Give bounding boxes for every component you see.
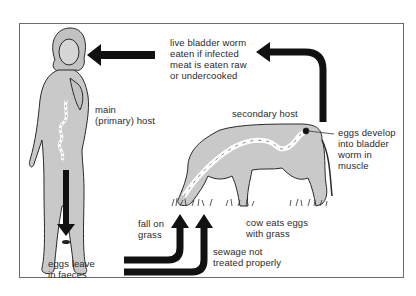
faeces-icon — [62, 240, 70, 244]
label-live-bladder-worm: live bladder worm eaten if infected meat… — [170, 37, 247, 81]
label-cow-eats: cow eats eggs with grass — [246, 217, 308, 239]
label-eggs-leave: eggs leave in faeces — [48, 258, 95, 280]
label-secondary-host: secondary host — [232, 108, 298, 119]
cow-figure — [178, 124, 332, 206]
label-main-host: main (primary) host — [95, 104, 155, 126]
human-figure — [29, 28, 88, 274]
label-eggs-develop: eggs develop into bladder worm in muscle — [338, 127, 396, 171]
arrow-to-human — [87, 44, 155, 66]
grass-icon — [172, 198, 327, 206]
label-fall-on-grass: fall on grass — [138, 218, 164, 240]
label-sewage: sewage not treated properly — [213, 246, 281, 268]
